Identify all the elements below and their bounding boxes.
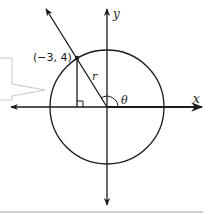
callout-shape — [0, 58, 45, 100]
point-label: (−3, 4) — [33, 51, 72, 64]
right-angle-marker — [77, 101, 83, 107]
diagram-canvas: (−3, 4) r θ x y — [0, 0, 213, 214]
x-axis-label: x — [193, 92, 200, 106]
y-axis-label: y — [112, 7, 120, 21]
angle-label: θ — [121, 94, 128, 107]
radius-label: r — [92, 70, 98, 83]
point-marker — [75, 56, 79, 60]
